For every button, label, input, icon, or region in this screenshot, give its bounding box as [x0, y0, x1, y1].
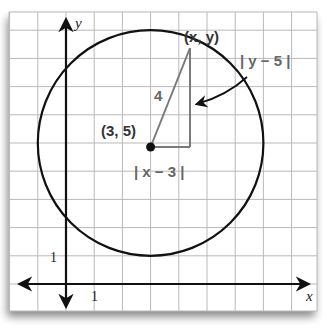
- vertical-leg-label: | y − 5 |: [240, 52, 291, 69]
- y-axis-label: y: [73, 15, 82, 31]
- radius-label: 4: [154, 87, 163, 104]
- point-label: (x, y): [184, 28, 219, 45]
- diagram-canvas: y x 1 1 (3, 5) (x, y) 4 | x − 3 | | y − …: [0, 0, 330, 329]
- center-point: [146, 143, 155, 152]
- y-tick-label: 1: [50, 250, 57, 265]
- x-axis-label: x: [305, 288, 313, 304]
- horizontal-leg-label: | x − 3 |: [134, 163, 185, 180]
- x-tick-label: 1: [91, 289, 98, 304]
- center-label: (3, 5): [101, 122, 136, 139]
